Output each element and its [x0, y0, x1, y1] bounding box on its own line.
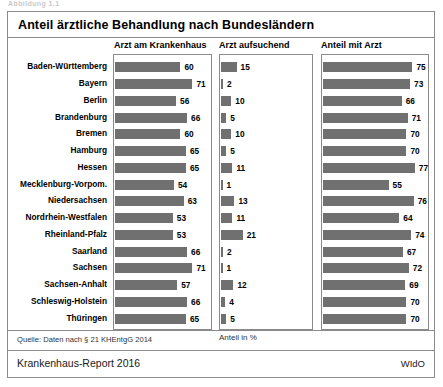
bar-row: 73 [322, 79, 428, 89]
bar-value-label: 1 [227, 180, 232, 190]
bar-row: 75 [322, 62, 428, 72]
source-row: Quelle: Daten nach § 21 KHEntgG 2014 Ant… [8, 330, 434, 351]
bar-value-label: 70 [410, 297, 419, 307]
category-label: Niedersachsen [48, 196, 107, 204]
bar-row: 5 [220, 146, 312, 156]
bar [221, 113, 226, 123]
bar-value-label: 71 [196, 263, 205, 273]
bar-row: 60 [114, 129, 211, 139]
bar [221, 96, 231, 106]
bar [323, 163, 415, 173]
column-headers: Arzt am Krankenhaus Arzt aufsuchend Ante… [8, 38, 434, 54]
bar [115, 96, 176, 106]
bar [115, 297, 187, 307]
bar-value-label: 73 [414, 79, 423, 89]
bar-value-label: 72 [413, 263, 422, 273]
bar-row: 15 [220, 62, 312, 72]
bar-row: 66 [114, 113, 211, 123]
bar-row: 1 [220, 180, 312, 190]
bar [115, 146, 186, 156]
bar-value-label: 1 [227, 263, 232, 273]
bar-value-label: 66 [191, 247, 200, 257]
bar-row: 5 [220, 113, 312, 123]
bar [115, 163, 186, 173]
figure-container: Anteil ärztliche Behandlung nach Bundesl… [7, 11, 435, 378]
bar [323, 230, 411, 240]
bar [115, 180, 174, 190]
bar-value-label: 60 [184, 62, 193, 72]
bar-row: 21 [220, 230, 312, 240]
figure-title-bar: Anteil ärztliche Behandlung nach Bundesl… [8, 12, 434, 38]
bar-row: 69 [322, 280, 428, 290]
bar-row: 11 [220, 163, 312, 173]
category-label: Sachsen-Anhalt [44, 280, 107, 288]
bar [221, 62, 237, 72]
bar-value-label: 12 [237, 280, 246, 290]
bar-row: 71 [322, 113, 428, 123]
bar [323, 297, 406, 307]
bar-row: 55 [322, 180, 428, 190]
bar [323, 196, 414, 206]
category-label-column: Baden-WürttembergBayernBerlinBrandenburg… [8, 54, 111, 332]
cutoff-caption: Abbildung 1.1 [8, 0, 128, 9]
bar-row: 65 [114, 146, 211, 156]
bar-value-label: 66 [406, 96, 415, 106]
bar [115, 213, 173, 223]
bar-row: 53 [114, 230, 211, 240]
bar [323, 314, 406, 324]
bar-row: 12 [220, 280, 312, 290]
bar-row: 5 [220, 314, 312, 324]
bar [323, 96, 402, 106]
bar-value-label: 5 [230, 113, 235, 123]
bar [221, 230, 243, 240]
bar-row: 71 [114, 79, 211, 89]
report-row: Krankenhaus-Report 2016 WIdO [8, 350, 434, 377]
bar-value-label: 54 [178, 180, 187, 190]
bar [323, 213, 399, 223]
publisher-logo: WIdO [401, 358, 425, 369]
bar [221, 314, 226, 324]
bar-value-label: 11 [236, 163, 245, 173]
category-label: Hessen [77, 163, 107, 171]
bar-value-label: 53 [177, 230, 186, 240]
bar-value-label: 21 [247, 230, 256, 240]
bar-value-label: 57 [181, 280, 190, 290]
category-label: Baden-Württemberg [27, 62, 107, 70]
bar-value-label: 67 [407, 247, 416, 257]
category-label: Berlin [83, 96, 107, 104]
bar-value-label: 76 [418, 196, 427, 206]
bar-value-label: 2 [227, 79, 232, 89]
bar-row: 76 [322, 196, 428, 206]
bar [323, 62, 412, 72]
bar [221, 213, 232, 223]
bar-value-label: 75 [416, 62, 425, 72]
bar [115, 129, 180, 139]
bar [323, 113, 408, 123]
bar-panel-arzt-aufsuchend: 152105105111131121211245 [219, 54, 313, 330]
plot-area: Baden-WürttembergBayernBerlinBrandenburg… [8, 54, 434, 332]
bar-row: 70 [322, 146, 428, 156]
bar-row: 70 [322, 314, 428, 324]
bar [221, 196, 234, 206]
bar-value-label: 10 [235, 129, 244, 139]
category-label: Bremen [76, 129, 107, 137]
bar-value-label: 5 [230, 314, 235, 324]
bar-value-label: 66 [191, 297, 200, 307]
bar [115, 314, 186, 324]
bar [221, 247, 223, 257]
bar-row: 67 [322, 247, 428, 257]
category-label: Brandenburg [55, 113, 107, 121]
bar-value-label: 60 [184, 129, 193, 139]
bar-value-label: 64 [403, 213, 412, 223]
bar-panel-anteil-mit-arzt: 75736671707077557664746772697070 [321, 54, 429, 330]
category-label: Schleswig-Holstein [31, 297, 107, 305]
bar [323, 247, 403, 257]
bar-value-label: 10 [235, 96, 244, 106]
bar [323, 79, 410, 89]
category-label: Bayern [79, 79, 107, 87]
bar-row: 60 [114, 62, 211, 72]
bar-row: 66 [114, 247, 211, 257]
bar [323, 146, 406, 156]
bar [221, 79, 223, 89]
bar-row: 54 [114, 180, 211, 190]
